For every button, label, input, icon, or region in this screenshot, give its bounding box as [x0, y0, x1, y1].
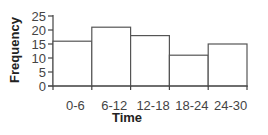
y-tick-label: 20 [32, 23, 46, 38]
y-tick-label: 10 [32, 51, 46, 66]
y-tick-label: 25 [32, 9, 46, 24]
bar-24-30 [208, 44, 247, 86]
bars [53, 27, 247, 86]
bar-18-24 [169, 55, 208, 86]
x-axis: 0-66-1212-1818-2424-30 [48, 86, 248, 113]
y-axis: 0510152025 [32, 9, 53, 94]
bar-0-6 [53, 41, 92, 86]
x-axis-title: Time [112, 110, 142, 125]
bar-6-12 [92, 27, 131, 86]
bar-12-18 [131, 36, 170, 86]
histogram-chart: 0510152025 0-66-1212-1818-2424-30 Freque… [0, 0, 268, 135]
y-tick-label: 0 [39, 79, 46, 94]
x-tick-label: 0-6 [66, 98, 85, 113]
y-axis-title: Frequency [7, 16, 22, 83]
x-tick-label: 18-24 [175, 98, 208, 113]
x-tick-label: 24-30 [214, 98, 247, 113]
y-tick-label: 5 [39, 65, 46, 80]
y-tick-label: 15 [32, 37, 46, 52]
